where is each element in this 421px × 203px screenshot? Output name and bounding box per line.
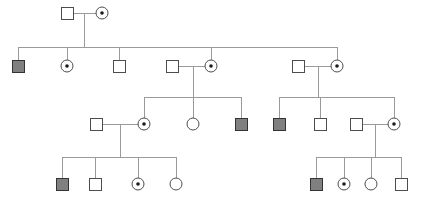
male-square-symbol[interactable] [273, 118, 285, 130]
individual-II-3-male-unaffected[interactable] [113, 60, 125, 72]
male-square-symbol[interactable] [113, 60, 125, 72]
female-circle-symbol[interactable] [187, 118, 199, 130]
male-square-symbol[interactable] [166, 60, 178, 72]
individual-III-3-female-unaffected[interactable] [187, 118, 199, 130]
male-square-symbol[interactable] [395, 178, 407, 190]
generation-group-IV [56, 178, 407, 190]
male-square-symbol[interactable] [12, 60, 24, 72]
male-square-symbol[interactable] [56, 178, 68, 190]
male-square-symbol[interactable] [90, 118, 102, 130]
individual-IV-6-female-unaffected-carrier[interactable] [338, 178, 350, 190]
male-square-symbol[interactable] [292, 60, 304, 72]
individual-III-7-male-unaffected[interactable] [350, 118, 362, 130]
individual-III-2-female-unaffected-carrier[interactable] [138, 118, 150, 130]
carrier-dot-icon [136, 182, 140, 186]
individual-II-2-female-unaffected-carrier[interactable] [61, 60, 73, 72]
individual-II-7-female-unaffected-carrier[interactable] [331, 60, 343, 72]
individual-II-1-male-affected[interactable] [12, 60, 24, 72]
individual-III-8-female-unaffected-carrier[interactable] [388, 118, 400, 130]
male-square-symbol[interactable] [314, 118, 326, 130]
male-square-symbol[interactable] [61, 7, 73, 19]
pedigree-canvas [0, 0, 421, 203]
individual-IV-8-male-unaffected[interactable] [395, 178, 407, 190]
individual-II-4-male-unaffected[interactable] [166, 60, 178, 72]
individual-II-6-male-unaffected[interactable] [292, 60, 304, 72]
individual-III-6-male-unaffected[interactable] [314, 118, 326, 130]
individual-III-1-male-unaffected[interactable] [90, 118, 102, 130]
individual-IV-7-female-unaffected[interactable] [365, 178, 377, 190]
generation-group-II [12, 60, 343, 72]
carrier-dot-icon [65, 64, 69, 68]
female-circle-symbol[interactable] [365, 178, 377, 190]
carrier-dot-icon [392, 122, 396, 126]
individual-III-4-male-affected[interactable] [235, 118, 247, 130]
individual-I-2-female-unaffected-carrier[interactable] [96, 7, 108, 19]
individual-IV-3-female-unaffected-carrier[interactable] [132, 178, 144, 190]
carrier-dot-icon [209, 64, 213, 68]
individual-III-5-male-affected[interactable] [273, 118, 285, 130]
connector-lines-layer [18, 13, 401, 178]
male-square-symbol[interactable] [310, 178, 322, 190]
carrier-dot-icon [100, 11, 104, 15]
female-circle-symbol[interactable] [170, 178, 182, 190]
individual-IV-2-male-unaffected[interactable] [89, 178, 101, 190]
pedigree-chart [0, 0, 421, 203]
male-square-symbol[interactable] [235, 118, 247, 130]
individual-IV-5-male-affected[interactable] [310, 178, 322, 190]
carrier-dot-icon [342, 182, 346, 186]
individual-I-1-male-unaffected[interactable] [61, 7, 73, 19]
carrier-dot-icon [142, 122, 146, 126]
carrier-dot-icon [335, 64, 339, 68]
individual-II-5-female-unaffected-carrier[interactable] [205, 60, 217, 72]
male-square-symbol[interactable] [350, 118, 362, 130]
individual-symbols-layer [12, 7, 407, 190]
individual-IV-4-female-unaffected[interactable] [170, 178, 182, 190]
male-square-symbol[interactable] [89, 178, 101, 190]
individual-IV-1-male-affected[interactable] [56, 178, 68, 190]
